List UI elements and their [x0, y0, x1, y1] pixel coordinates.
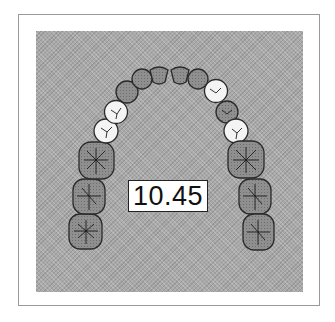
tooth-upper-right-central-incisor [150, 67, 168, 84]
tooth-upper-right-premolar-1 [105, 101, 128, 124]
dental-arch [0, 0, 335, 322]
tooth-upper-right-lateral-incisor [132, 69, 152, 89]
tooth-upper-left-central-incisor [171, 67, 189, 84]
measurement-label: 10.45 [128, 180, 208, 212]
tooth-upper-left-canine [205, 80, 228, 103]
tooth-upper-left-premolar-2 [224, 119, 248, 143]
